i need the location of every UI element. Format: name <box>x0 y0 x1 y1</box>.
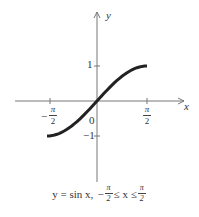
pi-numerator: π <box>145 105 150 114</box>
x-axis-label: x <box>184 100 189 112</box>
x-tick-label-pos: π 2 <box>143 105 151 126</box>
y-tick-label-1: 1 <box>87 58 93 70</box>
two-denominator: 2 <box>140 195 144 203</box>
pi-numerator: π <box>140 184 144 192</box>
two-denominator: 2 <box>51 117 56 126</box>
origin-label: 0 <box>89 114 95 126</box>
caption-lhs: y = sin x, <box>52 188 93 200</box>
pi-numerator: π <box>51 105 56 114</box>
caption-mid: ≤ x ≤ <box>114 188 137 200</box>
x-tick-label-neg: π 2 <box>49 105 57 126</box>
x-tick-neg-sign: − <box>41 110 47 122</box>
two-denominator: 2 <box>145 117 150 126</box>
pi-numerator: π <box>107 184 111 192</box>
caption-frac-upper: π 2 <box>138 184 146 203</box>
caption-neg: − <box>97 188 103 200</box>
two-denominator: 2 <box>107 195 111 203</box>
caption-frac-lower: π 2 <box>105 184 113 203</box>
chart-caption: y = sin x, − π 2 ≤ x ≤ π 2 <box>0 184 199 203</box>
y-axis-label: y <box>106 9 111 21</box>
y-tick-label-neg1: −1 <box>83 129 95 141</box>
